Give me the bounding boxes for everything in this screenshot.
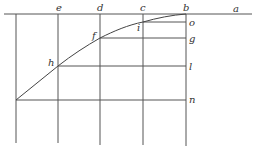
label-g: g <box>189 33 195 44</box>
label-c: c <box>140 2 146 13</box>
label-h: h <box>48 57 54 68</box>
label-n: n <box>189 94 195 105</box>
label-b: b <box>183 2 189 13</box>
label-e: e <box>56 2 62 13</box>
label-a: a <box>233 3 239 14</box>
geometric-construction-diagram: e d c b a o g l n f h i <box>0 0 256 153</box>
label-l: l <box>189 61 192 72</box>
label-d: d <box>97 2 103 13</box>
label-i: i <box>137 22 140 33</box>
curve-through-points <box>16 14 186 100</box>
label-o: o <box>189 17 195 28</box>
